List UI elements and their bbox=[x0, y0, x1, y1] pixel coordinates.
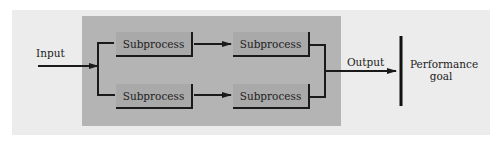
goal-label-line2: goal bbox=[410, 70, 472, 82]
input-label: Input bbox=[36, 47, 65, 59]
output-label: Output bbox=[347, 56, 384, 68]
goal-label-line1: Performance bbox=[410, 58, 472, 70]
split-bracket bbox=[98, 43, 115, 95]
merge-bracket bbox=[310, 45, 325, 97]
performance-goal-label: Performance goal bbox=[410, 58, 472, 82]
